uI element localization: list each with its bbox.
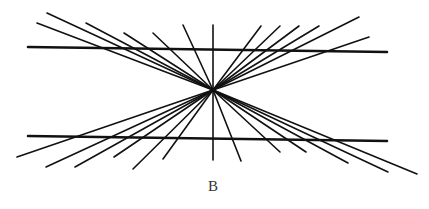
ray-line [46,90,213,167]
ray-line [213,90,417,174]
ray-line [213,26,261,90]
ray-line [153,33,213,90]
ray-line [213,17,359,90]
bottom-horizontal-line [28,136,387,141]
ray-line [213,90,306,152]
ray-line [163,90,213,159]
ray-line [213,26,319,90]
ray-line [213,26,299,90]
ray-line [75,90,213,167]
ray-line [213,37,369,90]
ray-line [213,26,280,90]
radiating-rays [17,13,417,174]
figure-label: B [205,178,221,195]
ray-line [17,90,213,157]
ray-line [114,90,213,157]
ray-line [47,13,213,90]
ray-line [213,90,388,172]
ray-line [86,23,213,90]
ray-line [133,90,213,169]
